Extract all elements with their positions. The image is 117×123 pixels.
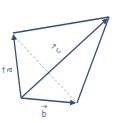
- label-c-group: c →: [48, 41, 64, 56]
- label-a-group: a →: [0, 66, 14, 73]
- vector-a: [14, 35, 22, 98]
- label-b-group: b →: [41, 102, 48, 119]
- vector-b: [21, 98, 75, 103]
- label-b: b: [41, 110, 46, 119]
- label-a-vec-mark: →: [0, 66, 8, 73]
- vector-diagram: a → b → c →: [0, 0, 117, 123]
- segment-b-c: [77, 17, 109, 103]
- dashed-diagonal-a-b: [15, 37, 75, 101]
- label-b-vec-mark: →: [41, 102, 48, 111]
